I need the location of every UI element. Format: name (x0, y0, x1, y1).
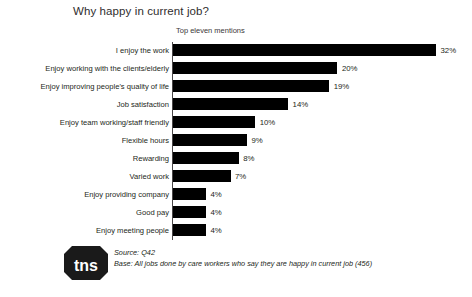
bar-row: Job satisfaction14% (0, 98, 472, 116)
slide-canvas: Why happy in current job? Top eleven men… (0, 0, 472, 297)
bar-value-label: 32% (441, 44, 457, 57)
bar-value-label: 14% (293, 98, 309, 111)
bar-category-label: Varied work (129, 170, 169, 183)
bar-category-label: Flexible hours (122, 134, 169, 147)
bar-category-label: Job satisfaction (117, 98, 169, 111)
bar-category-label: Enjoy working with the clients/elderly (45, 62, 169, 75)
bar-row: Enjoy improving people's quality of life… (0, 80, 472, 98)
bar-value-label: 9% (251, 134, 262, 147)
bar-value-label: 10% (260, 116, 276, 129)
bar-value-label: 8% (243, 152, 254, 165)
bar-value-label: 19% (334, 80, 350, 93)
bar (173, 116, 255, 129)
tns-logo: tns (64, 246, 108, 280)
base-line: Base: All jobs done by care workers who … (114, 259, 464, 270)
bar (173, 170, 231, 183)
chart-subtitle: Top eleven mentions (176, 26, 245, 35)
bar-row: Enjoy providing company4% (0, 188, 472, 206)
bar (173, 44, 436, 57)
bar-value-label: 4% (210, 206, 221, 219)
bar-category-label: I enjoy the work (116, 44, 169, 57)
bar (173, 80, 329, 93)
bar (173, 98, 288, 111)
bar-category-label: Enjoy meeting people (96, 224, 169, 237)
bar-row: Varied work7% (0, 170, 472, 188)
bar-value-label: 20% (342, 62, 358, 75)
bar-category-label: Rewarding (133, 152, 169, 165)
bar (173, 206, 206, 219)
bar-chart-plot-area: I enjoy the work32%Enjoy working with th… (0, 40, 472, 242)
bar (173, 224, 206, 237)
bar-category-label: Enjoy improving people's quality of life (40, 80, 169, 93)
bar-category-label: Enjoy team working/staff friendly (60, 116, 169, 129)
bar (173, 188, 206, 201)
chart-title: Why happy in current job? (73, 5, 209, 17)
bar (173, 62, 337, 75)
bar-category-label: Enjoy providing company (84, 188, 169, 201)
chart-footer: tns Source: Q42 Base: All jobs done by c… (0, 244, 472, 297)
bar-value-label: 4% (210, 188, 221, 201)
bar-value-label: 4% (210, 224, 221, 237)
bar-value-label: 7% (235, 170, 246, 183)
bar-row: Enjoy working with the clients/elderly20… (0, 62, 472, 80)
bar (173, 152, 239, 165)
bar (173, 134, 247, 147)
bar-row: Enjoy team working/staff friendly10% (0, 116, 472, 134)
bar-row: Flexible hours9% (0, 134, 472, 152)
bar-row: I enjoy the work32% (0, 44, 472, 62)
source-note-block: Source: Q42 Base: All jobs done by care … (114, 248, 464, 269)
bar-row: Good pay4% (0, 206, 472, 224)
svg-text:tns: tns (74, 257, 98, 274)
bar-row: Rewarding8% (0, 152, 472, 170)
bar-category-label: Good pay (136, 206, 169, 219)
source-line: Source: Q42 (114, 248, 464, 259)
bar-row: Enjoy meeting people4% (0, 224, 472, 242)
